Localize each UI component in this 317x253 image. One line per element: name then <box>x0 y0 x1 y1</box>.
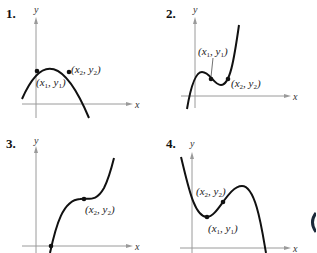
y-axis-label: y <box>33 135 39 146</box>
panel-number: 3. <box>6 136 16 151</box>
figure: 1. y x (x1, y1) (x2, y2) 2. y x (x1, y1)… <box>0 0 316 253</box>
panel-4: 4. y x (x2, y2) (x1, y1) <box>166 136 298 253</box>
x-axis-label: x <box>134 241 140 252</box>
x-axis-arrow-icon <box>284 94 291 98</box>
panel-number: 2. <box>166 6 176 21</box>
point-1-label: (x1, y1) <box>208 222 238 236</box>
panel-1: 1. y x (x1, y1) (x2, y2) <box>6 4 140 118</box>
point-2-label: (x2, y2) <box>231 77 261 91</box>
panel-number: 1. <box>6 6 16 21</box>
point-2-label: (x2, y2) <box>85 203 115 217</box>
x-axis-arrow-icon <box>126 102 133 106</box>
leader-line <box>211 58 213 77</box>
y-axis-label: y <box>189 138 195 149</box>
point-1 <box>35 69 40 74</box>
point-1 <box>49 244 54 249</box>
point-2-label: (x2, y2) <box>196 185 226 199</box>
point-1-label: (x1, y1) <box>198 45 228 59</box>
point-1 <box>209 77 214 82</box>
y-axis-arrow-icon <box>193 17 197 24</box>
panel-number: 4. <box>166 136 176 151</box>
point-2 <box>226 77 231 82</box>
x-axis-label: x <box>134 99 140 110</box>
panel-2: 2. y x (x1, y1) (x2, y2) <box>166 4 298 109</box>
point-1-label: (x1, y1) <box>36 76 66 90</box>
point-2-label: (x2, y2) <box>71 63 101 77</box>
panel-3: 3. y x (x2, y2) <box>6 135 140 253</box>
y-axis-arrow-icon <box>190 152 194 159</box>
point-2 <box>82 197 87 202</box>
curve <box>181 157 266 253</box>
x-axis-arrow-icon <box>284 246 291 250</box>
y-axis-arrow-icon <box>34 17 38 24</box>
point-2 <box>221 200 226 205</box>
point-1 <box>205 215 210 220</box>
y-axis-label: y <box>192 4 198 15</box>
cropped-parenthesis-glyph <box>313 213 317 232</box>
x-axis-arrow-icon <box>126 244 133 248</box>
y-axis-arrow-icon <box>34 146 38 153</box>
y-axis-label: y <box>33 4 39 15</box>
x-axis-label: x <box>292 91 298 102</box>
x-axis-label: x <box>292 243 298 253</box>
